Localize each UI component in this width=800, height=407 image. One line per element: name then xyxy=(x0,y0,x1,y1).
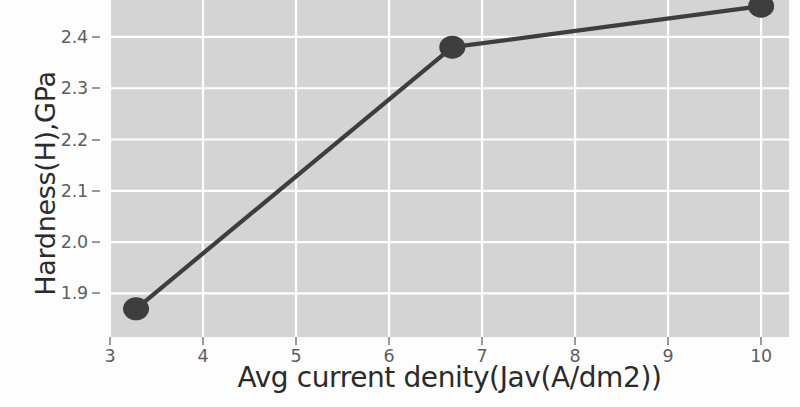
data-point-marker xyxy=(439,36,465,59)
y-tick-mark xyxy=(92,87,100,89)
x-tick-mark xyxy=(760,337,762,345)
x-tick-mark xyxy=(202,337,204,345)
y-tick-mark xyxy=(92,36,100,38)
y-tick-mark xyxy=(92,139,100,141)
x-tick-mark xyxy=(574,337,576,345)
y-tick-label: 1.9 xyxy=(61,283,88,303)
y-tick-mark xyxy=(92,190,100,192)
data-point-marker xyxy=(748,0,774,18)
y-tick-label: 2.4 xyxy=(61,27,88,47)
y-axis-title: Hardness(H),GPa xyxy=(30,19,61,349)
y-tick-mark xyxy=(92,241,100,243)
y-tick-label: 2.1 xyxy=(61,181,88,201)
data-point-marker xyxy=(123,297,149,320)
x-tick-mark xyxy=(109,337,111,345)
chart-figure: 1.92.02.12.22.32.4 Hardness(H),GPa 34567… xyxy=(0,0,800,407)
x-tick-mark xyxy=(667,337,669,345)
y-tick-label: 2.0 xyxy=(61,232,88,252)
x-tick-mark xyxy=(481,337,483,345)
x-tick-mark xyxy=(388,337,390,345)
data-series-line xyxy=(110,0,789,337)
y-tick-label: 2.2 xyxy=(61,130,88,150)
x-axis-title: Avg current denity(Jav(A/dm2)) xyxy=(110,361,789,394)
y-tick-label: 2.3 xyxy=(61,78,88,98)
plot-area xyxy=(110,0,789,337)
x-tick-mark xyxy=(295,337,297,345)
y-tick-mark xyxy=(92,292,100,294)
